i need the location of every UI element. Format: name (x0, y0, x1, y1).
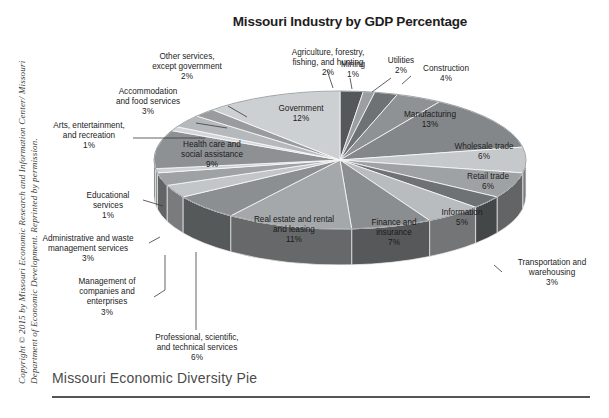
label-real-estate: Real estate and rental and leasing 11% (236, 215, 352, 246)
leader-other-services (228, 106, 247, 117)
pie-slice-0[interactable] (340, 91, 363, 160)
pie-wall-13 (157, 173, 167, 221)
label-construction: Construction 4% (410, 64, 482, 84)
label-other-services: Other services, except government 2% (128, 52, 246, 83)
copyright-notice: Copyright © 2015 by Missouri Economic Re… (16, 24, 40, 384)
label-accommodation: Accommodation and food services 3% (96, 87, 200, 118)
label-health-care: Health care and social assistance 9% (160, 140, 264, 171)
caption-divider (52, 396, 590, 398)
label-administrative: Administrative and waste management serv… (26, 234, 150, 265)
chart-title: Missouri Industry by GDP Percentage (160, 14, 540, 29)
label-educational: Educational services 1% (74, 191, 142, 222)
pie-wall-11 (183, 197, 231, 252)
pie-slice-1[interactable] (340, 92, 375, 160)
label-wholesale-trade: Wholesale trade 6% (432, 142, 536, 162)
label-professional: Professional, scientific, and technical … (134, 333, 260, 364)
pie-wall-15 (154, 160, 155, 205)
label-transportation: Transportation and warehousing 3% (500, 258, 604, 289)
figure-page: Copyright © 2015 by Missouri Economic Re… (0, 0, 609, 418)
leader-accommodation (196, 123, 227, 128)
pie-wall-12 (167, 185, 183, 233)
pie-wall-14 (155, 169, 157, 209)
label-mining: Mining 1% (330, 60, 376, 80)
label-manufacturing: Manufacturing 13% (382, 110, 478, 130)
leader-management (154, 255, 165, 297)
leader-administrative (149, 237, 160, 243)
label-information: Information 5% (424, 208, 500, 228)
leader-educational (143, 200, 163, 206)
label-arts: Arts, entertainment, and recreation 1% (40, 121, 138, 152)
label-retail-trade: Retail trade 6% (440, 172, 536, 192)
label-management: Management of companies and enterprises … (62, 277, 152, 318)
label-government: Government 12% (252, 104, 350, 124)
figure-caption: Missouri Economic Diversity Pie (52, 370, 257, 386)
label-finance-insurance: Finance and insurance 7% (354, 218, 434, 249)
